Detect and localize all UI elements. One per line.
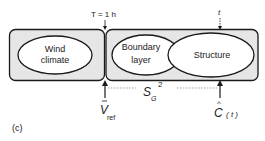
sg-label-sub: G bbox=[151, 95, 157, 102]
c-hat-main: C bbox=[214, 106, 223, 120]
sg-label-sup: 2 bbox=[158, 80, 163, 89]
panel-label: (c) bbox=[12, 123, 23, 133]
v-ref-sub: ref bbox=[107, 114, 115, 121]
sg-label-main: S bbox=[143, 85, 151, 99]
boundary-layer-label-line2: layer bbox=[131, 55, 151, 65]
structure-label: Structure bbox=[194, 50, 231, 60]
time-t-label: t bbox=[218, 8, 221, 17]
time-period-label: T = 1 h bbox=[91, 10, 116, 19]
wind-climate-label-line2: climate bbox=[41, 55, 70, 65]
c-hat-arg: ( t ) bbox=[226, 110, 238, 119]
wind-climate-label-line1: Wind bbox=[45, 44, 66, 54]
boundary-layer-label-line1: Boundary bbox=[122, 42, 161, 52]
diagram-canvas: Wind climate Boundary layer Structure T … bbox=[0, 0, 265, 141]
